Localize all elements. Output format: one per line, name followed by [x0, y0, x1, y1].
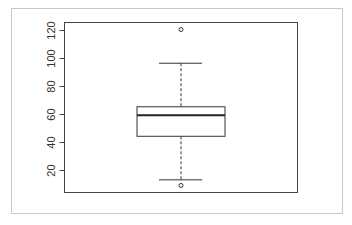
outlier-point [179, 28, 183, 32]
y-tick-label: 80 [45, 80, 57, 92]
outlier-point [179, 183, 183, 187]
y-tick-label: 120 [45, 21, 57, 39]
y-tick-label: 100 [45, 49, 57, 67]
boxplot-chart: 20406080100120 [0, 0, 352, 225]
y-tick-label: 60 [45, 108, 57, 120]
iqr-box [137, 107, 225, 137]
y-axis: 20406080100120 [45, 21, 65, 176]
box-plot [137, 28, 225, 188]
y-tick-label: 20 [45, 164, 57, 176]
y-tick-label: 40 [45, 136, 57, 148]
